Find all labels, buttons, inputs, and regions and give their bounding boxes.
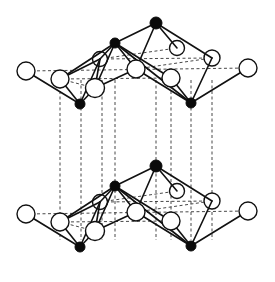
- cation-atom: [150, 160, 162, 172]
- anion-atom: [86, 79, 105, 98]
- layers: [17, 17, 257, 252]
- cation-atom: [110, 181, 120, 191]
- bond: [156, 23, 212, 58]
- anion-atom: [86, 222, 105, 241]
- anion-atom: [239, 202, 257, 220]
- anion-atom: [51, 213, 69, 231]
- cation-atom: [150, 17, 162, 29]
- anion-atom: [51, 70, 69, 88]
- anion-atom: [127, 203, 145, 221]
- dashed-edge: [100, 58, 212, 59]
- top-layer: [17, 17, 257, 109]
- bond: [115, 23, 156, 43]
- bottom-layer: [17, 160, 257, 252]
- cation-atom: [186, 98, 196, 108]
- dashed-edge: [100, 201, 212, 202]
- anion-atom: [17, 62, 35, 80]
- anion-atom: [162, 69, 180, 87]
- cation-atom: [75, 99, 85, 109]
- anion-atom: [239, 59, 257, 77]
- bond: [156, 166, 212, 201]
- anion-atom: [17, 205, 35, 223]
- anion-atom: [127, 60, 145, 78]
- cation-atom: [186, 241, 196, 251]
- cation-atom: [110, 38, 120, 48]
- bond: [115, 166, 156, 186]
- cation-atom: [75, 242, 85, 252]
- anion-atom: [162, 212, 180, 230]
- crystal-structure-diagram: [0, 0, 275, 282]
